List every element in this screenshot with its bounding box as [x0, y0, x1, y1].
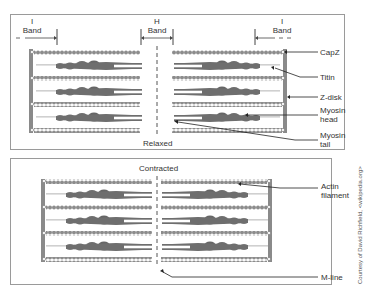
contracted-sarcomere: [41, 176, 318, 277]
relaxed-label: Relaxed: [143, 139, 172, 148]
left-z-disk: [29, 49, 33, 133]
right-i-band-label: I Band: [270, 17, 294, 35]
titin-label: Titin: [320, 73, 335, 82]
myosin-tail-label: Myosin tail: [320, 131, 345, 149]
actin-filament-label: Actin filament: [321, 182, 349, 200]
z-disk-label: Z-disk: [320, 93, 342, 102]
left-z-disk-contracted: [41, 179, 45, 262]
relaxed-sarcomere: [16, 29, 318, 140]
left-i-band-label: I Band: [20, 17, 44, 35]
myosin-head-label: Myosin head: [320, 106, 345, 124]
image-credit: Courtesy of David Richfield, <wikipedia.…: [357, 166, 363, 284]
sarcomere-diagram: [0, 0, 372, 296]
capz-label: CapZ: [320, 48, 340, 57]
h-band-label: H Band: [145, 17, 169, 35]
right-z-disk-contracted: [268, 179, 272, 262]
contracted-label: Contracted: [139, 164, 178, 173]
m-line-label: M-line: [321, 273, 343, 282]
myosin-filaments-relaxed: [36, 61, 280, 123]
right-z-disk: [283, 49, 287, 133]
